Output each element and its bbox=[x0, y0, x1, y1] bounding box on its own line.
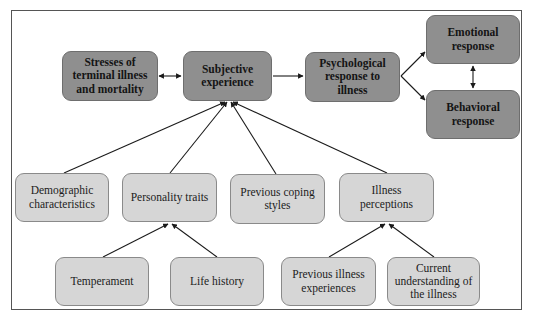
node-subjective: Subjective experience bbox=[183, 51, 272, 101]
node-emotional: Emotional response bbox=[426, 15, 520, 64]
node-understanding: Current understanding of the illness bbox=[387, 257, 480, 306]
node-label: Life history bbox=[190, 275, 244, 288]
node-label: Behavioral response bbox=[431, 101, 515, 127]
node-label: Stresses of terminal illness and mortali… bbox=[67, 56, 153, 96]
edge-understanding-to-perceptions bbox=[389, 224, 434, 257]
edge-personality-to-subjective bbox=[170, 102, 227, 173]
node-label: Subjective experience bbox=[188, 63, 267, 89]
node-perceptions: Illness perceptions bbox=[339, 173, 434, 222]
node-label: Current understanding of the illness bbox=[392, 262, 475, 302]
edge-coping-to-subjective bbox=[231, 102, 276, 174]
node-previllness: Previous illness experiences bbox=[281, 257, 376, 306]
node-label: Psychological response to illness bbox=[310, 57, 395, 97]
node-label: Emotional response bbox=[431, 26, 515, 52]
node-label: Demographic characteristics bbox=[20, 184, 104, 210]
node-psychological: Psychological response to illness bbox=[305, 52, 400, 102]
node-label: Personality traits bbox=[131, 191, 209, 204]
node-personality: Personality traits bbox=[122, 173, 217, 222]
node-stresses: Stresses of terminal illness and mortali… bbox=[62, 51, 158, 101]
node-demographic: Demographic characteristics bbox=[15, 173, 109, 222]
node-label: Temperament bbox=[70, 275, 133, 288]
edge-psychological-to-behavioral bbox=[401, 76, 425, 100]
edge-demographic-to-subjective bbox=[64, 102, 225, 173]
node-lifehistory: Life history bbox=[170, 257, 264, 306]
node-label: Illness perceptions bbox=[344, 184, 429, 210]
edge-lifehistory-to-personality bbox=[172, 224, 217, 257]
edge-psychological-to-emotional bbox=[401, 52, 425, 76]
node-behavioral: Behavioral response bbox=[426, 90, 520, 139]
node-label: Previous coping styles bbox=[235, 186, 320, 212]
node-label: Previous illness experiences bbox=[286, 268, 371, 294]
node-coping: Previous coping styles bbox=[230, 174, 325, 224]
node-temperament: Temperament bbox=[55, 257, 149, 306]
edge-previllness-to-perceptions bbox=[329, 224, 385, 257]
edge-perceptions-to-subjective bbox=[233, 102, 387, 173]
edge-temperament-to-personality bbox=[103, 224, 168, 257]
